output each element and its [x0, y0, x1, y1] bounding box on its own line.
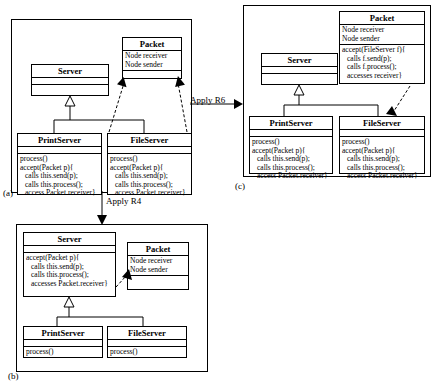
transition-label-r4: Apply R4	[106, 196, 141, 206]
panel-c-connectors	[244, 6, 430, 176]
panel-a-connectors	[12, 20, 191, 192]
panel-b-connectors	[17, 225, 207, 371]
dependency-arrowhead	[386, 106, 397, 116]
transition-arrowhead-r6	[234, 99, 243, 109]
dependency-line-packet-fileserver-c	[394, 86, 410, 111]
dependency-line-printserver-packet-a	[109, 83, 124, 132]
dependency-arrowhead	[117, 76, 129, 88]
dependency-arrowhead	[173, 75, 185, 87]
dependency-line-fileserver-packet-a	[178, 83, 187, 132]
panel-label-b: (b)	[8, 371, 19, 381]
transition-label-r6: Apply R6	[190, 95, 225, 105]
panel-c: Packet Node receiver Node sender accept(…	[243, 5, 431, 177]
generalization-arrow-server-b	[64, 297, 74, 307]
panel-label-a: (a)	[3, 188, 13, 198]
panel-a: Server Packet Node receiver Node sender …	[11, 19, 192, 193]
panel-label-c: (c)	[235, 181, 245, 191]
panel-b: Server accept(Packet p){ calls this.send…	[16, 224, 208, 372]
generalization-arrow-server-a	[65, 96, 75, 106]
generalization-arrow-server-c	[294, 85, 304, 95]
